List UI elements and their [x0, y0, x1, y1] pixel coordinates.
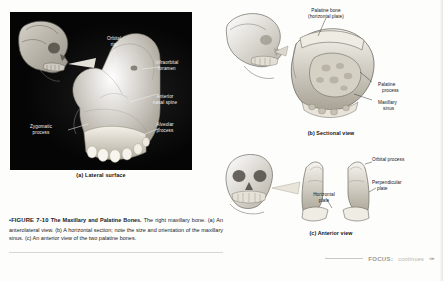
skull-inset-sectional: [226, 14, 288, 79]
footer: FOCUS: continues ➠: [325, 255, 435, 262]
figure-page: Orbital rimOrbitalrim Infraorbitalforame…: [0, 0, 443, 281]
panel-b-artwork: [222, 6, 382, 128]
label-orbital-rim: Orbital rimOrbitalrim: [88, 36, 140, 48]
figure-caption: •FIGURE 7-10 The Maxillary and Palatine …: [9, 216, 223, 243]
arrow-right-icon: ➠: [429, 255, 435, 262]
skull-inset-anterior: [226, 155, 273, 214]
maxillary-sinus-cavity: [310, 53, 361, 97]
label-perpendicular-plate: Perpendicular plate: [372, 180, 442, 192]
footer-rule: [325, 258, 363, 259]
label-horizontal-plate: Horizontal plate: [296, 192, 352, 204]
page-edge-shadow: [439, 0, 443, 281]
panel-a-photo-plate: Orbital rimOrbitalrim Infraorbitalforame…: [10, 12, 192, 170]
caption-rule: [9, 252, 223, 253]
figure-number: •FIGURE 7-10: [9, 217, 49, 223]
horizontal-plate-left: [302, 207, 328, 221]
label-alveolar-process: Alveolarprocess: [140, 122, 190, 134]
horizontal-plate-right: [343, 207, 369, 221]
panel-c-artwork: [222, 152, 382, 230]
label-infraorbital-foramen: Infraorbitalforamen: [142, 60, 192, 72]
panel-c-caption: (c) Anterior view: [286, 230, 376, 236]
figure-title: The Maxillary and Palatine Bones.: [51, 217, 142, 223]
label-maxillary-sinus: Maxillary sinus: [378, 100, 440, 112]
label-palatine-bone-line2: (horizontal plate): [308, 14, 344, 19]
label-anterior-nasal-spine: Anteriornasal spine: [138, 94, 192, 106]
label-orbital-process: Orbital process: [372, 157, 442, 163]
label-palatine-bone-line1: Palatine bone: [311, 8, 340, 13]
label-palatine-process: Palatine process: [378, 82, 440, 94]
panel-b-caption: (b) Sectional view: [286, 130, 376, 136]
footer-focus-label: FOCUS:: [368, 256, 393, 262]
footer-continues-label: continues: [398, 256, 424, 262]
label-palatine-bone: Palatine bone (horizontal plate): [288, 8, 364, 20]
label-zygomatic-process: Zygomaticprocess: [16, 124, 66, 136]
panel-a-caption: (a) Lateral surface: [10, 172, 192, 178]
